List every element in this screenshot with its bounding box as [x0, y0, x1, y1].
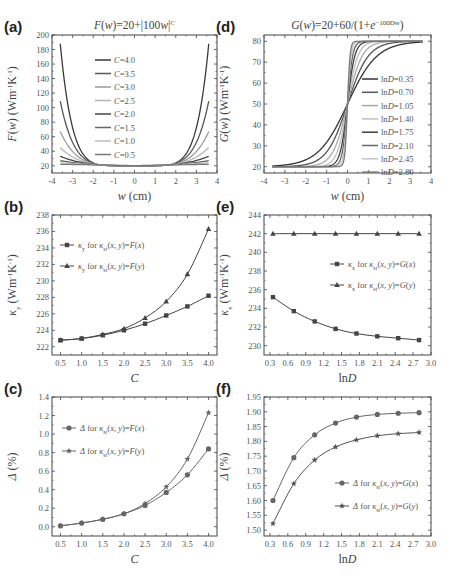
x-tick-label: 4: [215, 176, 220, 186]
x-axis-label: lnD: [338, 552, 356, 566]
y-tick-label: 180: [36, 45, 49, 55]
y-tick-label: 232: [248, 322, 261, 332]
x-tick-label: 2.1: [372, 539, 383, 549]
x-tick-label: 0.6: [283, 358, 294, 368]
x-tick-label: 0.5: [55, 358, 66, 368]
legend-entry: lnD=2.80: [381, 167, 413, 177]
x-axis-label: C: [130, 552, 139, 566]
x-tick-label: 3: [194, 176, 198, 186]
x-tick-label: 3.0: [161, 539, 172, 549]
y-tick-label: 238: [36, 210, 49, 220]
legend-entry: C=1.0: [114, 136, 135, 146]
y-tick-label: 1.4: [38, 392, 49, 402]
y-tick-label: 80: [253, 36, 262, 46]
y-tick-label: 70: [253, 57, 262, 67]
y-tick-label: 40: [253, 120, 262, 130]
panel-letter: (b): [4, 198, 23, 215]
panel-letter: (e): [216, 198, 234, 215]
x-tick-label: 0.9: [300, 539, 311, 549]
legend-entry: lnD=2.10: [381, 141, 413, 151]
x-tick-label: 2.7: [408, 358, 419, 368]
panel-d: (d)G(w)=20+60/(1+e−100Dw)-4-3-2-10123420…: [216, 18, 434, 203]
x-tick-label: 3.0: [161, 358, 172, 368]
legend-entry: lnD=0.70: [381, 87, 413, 97]
x-axis-label: w (cm): [331, 189, 365, 203]
y-tick-label: 1.60: [246, 496, 261, 506]
y-tick-label: 80: [41, 117, 50, 127]
series-line: [60, 296, 208, 340]
x-tick-label: 1.2: [318, 539, 329, 549]
x-tick-label: 4.0: [203, 358, 214, 368]
panel-e: (e)0.30.60.91.21.51.82.12.42.73.02302322…: [216, 198, 436, 385]
series-line: [273, 297, 419, 340]
y-tick-label: 30: [253, 141, 262, 151]
legend-entry: C=3.0: [114, 82, 135, 92]
x-tick-label: 0: [132, 176, 136, 186]
plot-area: [52, 215, 217, 355]
y-tick-label: 1.65: [246, 481, 261, 491]
y-tick-label: 20: [41, 161, 50, 171]
x-tick-label: -2: [302, 176, 309, 186]
y-tick-label: 1.2: [38, 411, 49, 421]
x-tick-label: 2.5: [140, 358, 151, 368]
x-tick-label: 1.5: [336, 358, 347, 368]
x-tick-label: 2.5: [140, 539, 151, 549]
x-tick-label: 4: [429, 176, 434, 186]
y-tick-label: 236: [36, 226, 49, 236]
y-tick-label: 50: [253, 99, 262, 109]
y-tick-label: 234: [36, 243, 50, 253]
panel-letter: (f): [216, 380, 231, 397]
chart-title: G(w)=20+60/(1+e−100Dw): [291, 19, 404, 32]
y-tick-label: 140: [36, 74, 49, 84]
x-tick-label: 1.2: [318, 358, 329, 368]
y-axis-label: G(w) (Wm-1K-1): [217, 66, 231, 143]
legend-entry: lnD=1.05: [381, 101, 413, 111]
x-tick-label: 1.5: [97, 539, 108, 549]
y-tick-label: 236: [248, 285, 261, 295]
x-tick-label: 0.3: [265, 358, 276, 368]
x-tick-label: 2.0: [119, 539, 130, 549]
x-tick-label: 3.0: [426, 358, 437, 368]
x-tick-label: 2.1: [372, 358, 383, 368]
legend-entry: lnD=1.40: [381, 114, 413, 124]
legend: lnD=0.35lnD=0.70lnD=1.05lnD=1.40lnD=1.75…: [362, 74, 413, 177]
x-tick-label: 0: [345, 176, 349, 186]
x-tick-label: 1: [153, 176, 157, 186]
x-tick-label: 1.8: [354, 358, 365, 368]
legend: κx for κst(x, y)=G(x)κx for κst(x, y)=G(…: [330, 259, 415, 292]
plot-area: [52, 397, 217, 536]
panel-c: (c)0.51.01.52.02.53.03.54.00.00.20.40.60…: [4, 380, 217, 566]
y-tick-label: 222: [36, 342, 49, 352]
y-axis-label: κy (Wm-1K-1): [5, 254, 22, 315]
x-tick-label: -1: [323, 176, 330, 186]
y-tick-label: 60: [253, 78, 262, 88]
y-tick-label: 120: [36, 88, 49, 98]
legend-entry: C=3.5: [114, 69, 135, 79]
x-axis-label: w (cm): [118, 189, 152, 203]
y-tick-label: 244: [248, 210, 262, 220]
legend-entry: κy for κst(x, y)=F(y): [78, 261, 144, 273]
legend-entry: C=2.0: [114, 109, 135, 119]
y-tick-label: 224: [36, 325, 50, 335]
y-tick-label: 0.6: [38, 466, 49, 476]
x-tick-label: 2: [174, 176, 178, 186]
legend-entry: lnD=1.75: [381, 127, 413, 137]
x-tick-label: 2.7: [408, 539, 419, 549]
y-tick-label: 1.85: [246, 422, 261, 432]
x-tick-label: 3: [408, 176, 412, 186]
x-tick-label: 3.5: [182, 539, 193, 549]
x-tick-label: 3.0: [426, 539, 437, 549]
y-tick-label: 1.50: [246, 525, 261, 535]
y-axis-label: κx (Wm-1K-1): [217, 254, 234, 315]
y-tick-label: 1.90: [246, 407, 261, 417]
y-tick-label: 238: [248, 266, 261, 276]
x-tick-label: 1: [366, 176, 370, 186]
x-tick-label: -1: [110, 176, 117, 186]
x-tick-label: 0.3: [265, 539, 276, 549]
legend-entry: Δ for κst(x, y)=G(x): [352, 478, 418, 490]
legend-entry: lnD=2.45: [381, 154, 413, 164]
x-tick-label: 3.5: [182, 358, 193, 368]
legend-entry: C=1.5: [114, 123, 135, 133]
y-tick-label: 1.95: [246, 392, 261, 402]
x-tick-label: 2.0: [119, 358, 130, 368]
